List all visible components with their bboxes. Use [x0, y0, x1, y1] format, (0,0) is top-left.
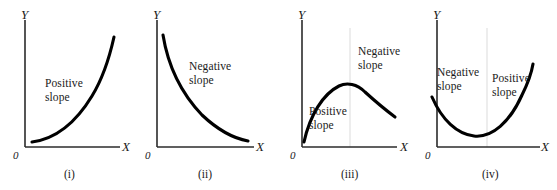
origin-label: 0: [425, 150, 431, 161]
y-axis-label: Y: [298, 8, 305, 21]
annotation-positive-slope: Positive slope: [492, 72, 530, 99]
origin-label: 0: [290, 150, 296, 161]
x-axis-label: X: [541, 140, 549, 153]
panel-caption: (ii): [198, 169, 212, 181]
curve-decreasing-convex: [163, 35, 248, 141]
x-axis-label: X: [122, 140, 130, 153]
annotation-negative-slope: Negative slope: [189, 60, 231, 87]
x-axis-label: X: [256, 140, 264, 153]
slope-types-figure: Y X 0 Positive slope (i) Y X 0 Negative …: [0, 0, 557, 190]
panel-iv: Y X 0 Negative slope Positive slope (iv): [412, 0, 557, 190]
y-axis-label: Y: [21, 8, 28, 21]
panel-ii: Y X 0 Negative slope (ii): [132, 0, 272, 190]
panel-iv-plot: [412, 0, 557, 190]
panel-i: Y X 0 Positive slope (i): [0, 0, 140, 190]
annotation-positive-slope: Positive slope: [45, 77, 83, 104]
panel-iii-plot: [277, 0, 422, 190]
annotation-negative-slope: Negative slope: [437, 66, 479, 93]
origin-label: 0: [145, 150, 151, 161]
panel-caption: (iii): [341, 169, 358, 181]
panel-ii-plot: [132, 0, 272, 190]
origin-label: 0: [13, 150, 19, 161]
panel-caption: (iv): [482, 169, 499, 181]
panel-caption: (i): [64, 169, 75, 181]
y-axis-label: Y: [153, 8, 160, 21]
panel-iii: Y X 0 Negative slope Positive slope (iii…: [277, 0, 422, 190]
x-axis-label: X: [400, 140, 408, 153]
annotation-positive-slope: Positive slope: [309, 105, 347, 132]
annotation-negative-slope: Negative slope: [358, 45, 400, 72]
y-axis-label: Y: [433, 8, 440, 21]
